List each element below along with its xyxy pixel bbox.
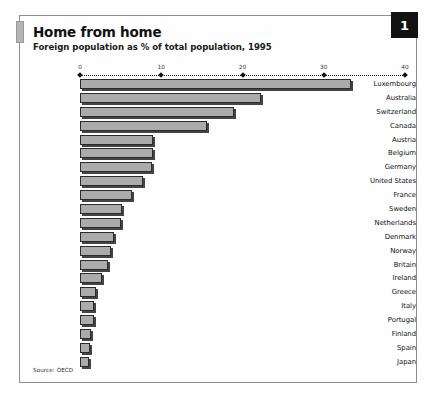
x-tick-mark bbox=[240, 72, 246, 78]
bar-category-label: Belgium bbox=[359, 147, 416, 159]
bar-category-label: Finland bbox=[359, 328, 416, 340]
x-tick-label: 40 bbox=[401, 64, 408, 70]
left-edge-tab bbox=[16, 21, 24, 43]
x-tick-label: 0 bbox=[78, 64, 82, 70]
bar-row: Italy bbox=[20, 300, 416, 314]
x-tick-label: 30 bbox=[320, 64, 327, 70]
bar-category-label: Germany bbox=[359, 161, 416, 173]
bar-category-label: Netherlands bbox=[359, 217, 416, 229]
x-tick-mark bbox=[77, 72, 83, 78]
chart-figure: 1 Home from home Foreign population as %… bbox=[19, 15, 417, 383]
bar-row: Britain bbox=[20, 259, 416, 273]
bar-row: Switzerland bbox=[20, 106, 416, 120]
bar-row: Finland bbox=[20, 328, 416, 342]
bar-row: Greece bbox=[20, 286, 416, 300]
bar-category-label: Britain bbox=[359, 259, 416, 271]
bar bbox=[80, 162, 152, 172]
bar-category-label: Spain bbox=[359, 342, 416, 354]
bar-category-label: Switzerland bbox=[359, 106, 416, 118]
bar bbox=[80, 273, 102, 283]
chart-title: Home from home bbox=[33, 24, 382, 40]
bar-row: Denmark bbox=[20, 231, 416, 245]
bar-category-label: Greece bbox=[359, 286, 416, 298]
bar bbox=[80, 246, 111, 256]
plot-area: 010203040 LuxembourgAustraliaSwitzerland… bbox=[20, 64, 416, 382]
bar-row: Ireland bbox=[20, 272, 416, 286]
bar-row: France bbox=[20, 189, 416, 203]
plate-number-badge: 1 bbox=[391, 12, 418, 38]
bar bbox=[80, 301, 94, 311]
bar-row: Sweden bbox=[20, 203, 416, 217]
bar bbox=[80, 315, 94, 325]
bar bbox=[80, 93, 261, 103]
bar bbox=[80, 148, 153, 158]
bar-category-label: Italy bbox=[359, 300, 416, 312]
bar bbox=[80, 260, 108, 270]
bar-row: Japan bbox=[20, 356, 416, 370]
bar-category-label: Luxembourg bbox=[359, 78, 416, 90]
bar-category-label: Portugal bbox=[359, 314, 416, 326]
x-tick-label: 20 bbox=[239, 64, 246, 70]
bar-row: Canada bbox=[20, 120, 416, 134]
bar-row: United States bbox=[20, 175, 416, 189]
bar-category-label: Norway bbox=[359, 245, 416, 257]
bar-row: Belgium bbox=[20, 147, 416, 161]
bar-category-label: Sweden bbox=[359, 203, 416, 215]
bar-row: Norway bbox=[20, 245, 416, 259]
bar bbox=[80, 218, 121, 228]
bar-category-label: United States bbox=[359, 175, 416, 187]
bar-row: Portugal bbox=[20, 314, 416, 328]
x-tick-mark bbox=[158, 72, 164, 78]
bar bbox=[80, 176, 143, 186]
bar-category-label: France bbox=[359, 189, 416, 201]
bar-series: LuxembourgAustraliaSwitzerlandCanadaAust… bbox=[20, 78, 416, 370]
bar-category-label: Australia bbox=[359, 92, 416, 104]
bar-category-label: Canada bbox=[359, 120, 416, 132]
bar-row: Luxembourg bbox=[20, 78, 416, 92]
bar-row: Australia bbox=[20, 92, 416, 106]
bar bbox=[80, 135, 153, 145]
x-tick-label: 10 bbox=[158, 64, 165, 70]
bar-category-label: Denmark bbox=[359, 231, 416, 243]
bar-category-label: Ireland bbox=[359, 272, 416, 284]
bar bbox=[80, 343, 90, 353]
bar-row: Germany bbox=[20, 161, 416, 175]
bar bbox=[80, 204, 122, 214]
bar bbox=[80, 357, 89, 367]
bar-row: Netherlands bbox=[20, 217, 416, 231]
bar-row: Spain bbox=[20, 342, 416, 356]
bar bbox=[80, 79, 351, 89]
bar-category-label: Austria bbox=[359, 134, 416, 146]
bar bbox=[80, 107, 234, 117]
chart-header: Home from home Foreign population as % o… bbox=[33, 24, 382, 53]
bar-category-label: Japan bbox=[359, 356, 416, 368]
chart-subtitle: Foreign population as % of total populat… bbox=[33, 42, 382, 53]
x-tick-mark bbox=[321, 72, 327, 78]
bar-row: Austria bbox=[20, 134, 416, 148]
bar bbox=[80, 121, 207, 131]
bar bbox=[80, 190, 132, 200]
bar bbox=[80, 329, 91, 339]
x-tick-mark bbox=[402, 72, 408, 78]
bar bbox=[80, 232, 114, 242]
source-note: Source: OECD bbox=[33, 367, 73, 373]
bar bbox=[80, 287, 96, 297]
